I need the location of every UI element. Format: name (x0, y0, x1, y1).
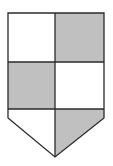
cell-base-right (55, 109, 104, 157)
cell-middle-right (55, 62, 104, 109)
cell-middle-left (8, 62, 55, 109)
cell-top-right (55, 13, 104, 62)
shield-diagram (0, 0, 113, 166)
cell-base-left (8, 109, 55, 157)
cell-top-left (8, 13, 55, 62)
